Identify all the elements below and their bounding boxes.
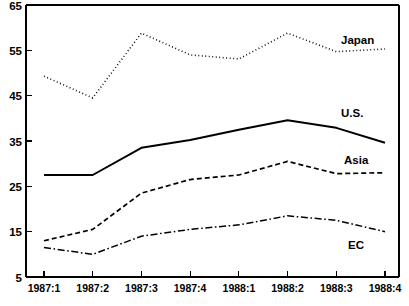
y-tick-label-25: 25 [9, 181, 22, 193]
x-tick-label-1987-4: 1987:4 [174, 282, 207, 294]
x-tick-label-1988-2: 1988:2 [271, 282, 304, 294]
x-tick-label-1987-2: 1987:2 [76, 282, 109, 294]
x-tick-label-1987-3: 1987:3 [125, 282, 158, 294]
x-tick-label-1987-1: 1987:1 [28, 282, 61, 294]
y-tick-label-55: 55 [9, 45, 22, 57]
y-tick-label-65: 65 [9, 0, 22, 12]
chart-container: 65 55 45 35 25 15 5 1987:1 1987:2 1987:3… [0, 0, 409, 306]
x-tick-label-1988-3: 1988:3 [320, 282, 353, 294]
y-tick-label-45: 45 [9, 90, 22, 102]
series-label-us: U.S. [341, 107, 363, 119]
x-axis-tick-labels: 1987:1 1987:2 1987:3 1987:4 1988:1 1988:… [28, 282, 402, 294]
y-tick-label-15: 15 [9, 226, 22, 238]
x-tick-label-1988-1: 1988:1 [223, 282, 256, 294]
series-label-japan: Japan [341, 34, 374, 46]
y-axis-tick-labels: 65 55 45 35 25 15 5 [9, 0, 22, 284]
y-tick-label-5: 5 [16, 272, 23, 284]
y-tick-label-35: 35 [9, 136, 22, 148]
series-label-asia: Asia [344, 154, 369, 166]
series-label-ec: EC [348, 239, 364, 251]
x-tick-label-1988-4: 1988:4 [369, 282, 402, 294]
line-chart: 65 55 45 35 25 15 5 1987:1 1987:2 1987:3… [0, 0, 409, 306]
